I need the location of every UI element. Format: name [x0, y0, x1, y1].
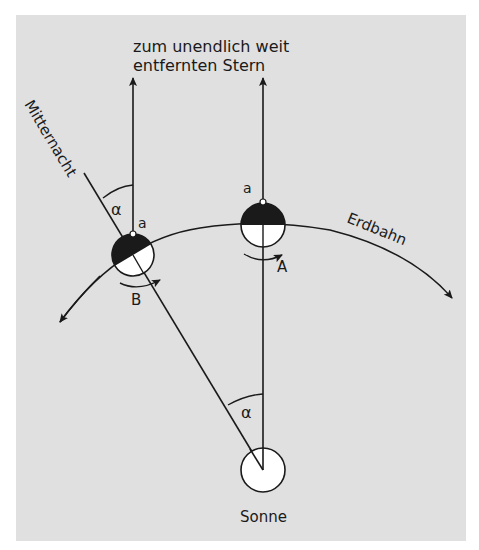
earth-orbit-back-arrow: [60, 276, 100, 322]
midnight-label: Mitternacht: [21, 97, 81, 180]
angle-alpha-top: α: [111, 200, 122, 219]
title-line-2: entfernten Stern: [133, 56, 265, 75]
observer-b-marker: [130, 231, 136, 237]
title-line-1: zum unendlich weit: [133, 37, 289, 56]
observer-a-marker: [260, 199, 266, 205]
angle-arc-top: [103, 185, 133, 198]
position-a-label: A: [277, 258, 288, 276]
orbit-label: Erdbahn: [345, 209, 410, 249]
rotation-arrow-b: [120, 280, 160, 287]
earth-position-a: [241, 199, 285, 247]
observer-a-label: a: [243, 180, 252, 196]
angle-alpha-bottom: α: [241, 403, 252, 422]
position-b-label: B: [131, 291, 141, 309]
sidereal-day-diagram: zum unendlich weit entfernten Stern Mitt…: [0, 0, 479, 550]
sun-label: Sonne: [240, 508, 287, 526]
observer-b-label: a: [138, 215, 147, 231]
